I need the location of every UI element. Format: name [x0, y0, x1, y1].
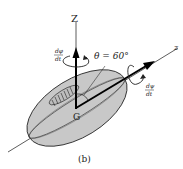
precession-arrowhead-icon [83, 55, 88, 60]
Z-arrowhead-icon [73, 47, 80, 58]
precession-numerator: dφ [55, 47, 64, 55]
z-axis-label: z [173, 43, 179, 52]
spin-denominator: dt [146, 90, 153, 97]
Z-axis-label: Z [71, 13, 78, 24]
spin-arrowhead-icon [140, 74, 146, 79]
angle-label: θ = 60° [94, 51, 129, 61]
spin-numerator: dψ [146, 82, 155, 90]
center-label-G: G [73, 112, 80, 122]
football-diagram: Z z G θ = 60° dφ dt dψ dt (b) [0, 0, 183, 169]
spin-rate-label: dψ dt [145, 82, 155, 97]
precession-denominator: dt [55, 55, 62, 62]
precession-rate-label: dφ dt [54, 47, 64, 62]
figure-caption: (b) [78, 154, 91, 164]
